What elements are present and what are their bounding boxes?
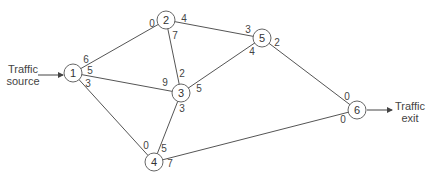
- edges: [73, 20, 357, 162]
- capacity-label: 0: [149, 19, 155, 29]
- capacity-label: 2: [179, 69, 185, 79]
- traffic-source-label: Traffic source: [4, 63, 42, 87]
- capacity-label: 0: [340, 115, 346, 125]
- node-label-5: 5: [259, 32, 265, 44]
- capacity-label: 7: [172, 31, 178, 41]
- traffic-source-line1: Traffic: [4, 63, 42, 75]
- capacity-label: 0: [143, 141, 149, 151]
- nodes: [64, 11, 366, 171]
- edge-3-4: [154, 93, 181, 162]
- edge-5-6: [262, 38, 357, 110]
- capacity-label: 3: [85, 79, 91, 89]
- traffic-exit-label: Traffic exit: [392, 100, 428, 124]
- capacity-label: 9: [162, 78, 168, 88]
- capacity-label: 0: [344, 92, 350, 102]
- traffic-exit-line1: Traffic: [392, 100, 428, 112]
- node-label-1: 1: [70, 67, 76, 79]
- capacity-label: 5: [161, 144, 167, 154]
- node-label-3: 3: [178, 87, 184, 99]
- capacity-label: 3: [179, 104, 185, 114]
- capacity-label: 5: [87, 66, 93, 76]
- capacity-label: 5: [196, 84, 202, 94]
- capacity-label: 3: [245, 25, 251, 35]
- network-diagram: [0, 0, 430, 181]
- node-label-4: 4: [151, 156, 157, 168]
- traffic-exit-line2: exit: [392, 112, 428, 124]
- capacity-label: 2: [274, 38, 280, 48]
- node-label-6: 6: [354, 104, 360, 116]
- capacity-label: 7: [167, 159, 173, 169]
- traffic-source-line2: source: [4, 75, 42, 87]
- capacity-label: 6: [83, 55, 89, 65]
- capacity-label: 4: [181, 14, 187, 24]
- capacity-label: 4: [249, 47, 255, 57]
- edge-4-6: [154, 110, 357, 162]
- node-label-2: 2: [163, 14, 169, 26]
